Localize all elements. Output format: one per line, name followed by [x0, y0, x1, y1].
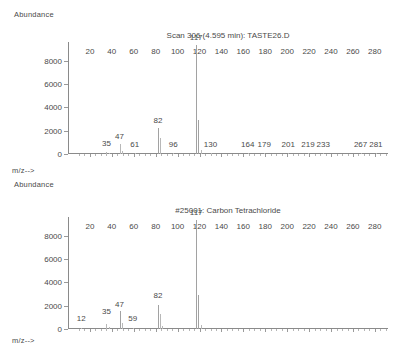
x-axis-minor-tick: [79, 329, 80, 331]
x-axis-tick: [90, 154, 91, 157]
x-axis-tick: [375, 329, 376, 332]
x-axis-minor-tick: [216, 154, 217, 156]
spectrum-peak: [162, 326, 163, 329]
x-axis-minor-tick: [364, 154, 365, 156]
spectrum-peak: [201, 325, 202, 329]
x-axis-minor-tick: [183, 154, 184, 156]
spectrum-peak: [248, 153, 249, 154]
x-axis-caption-bottom: m/z-->: [12, 336, 35, 345]
spectrum-peak: [160, 138, 161, 154]
spectrum-peak: [160, 314, 161, 330]
x-axis-caption-top: m/z-->: [12, 166, 35, 175]
plot-area-library: 2040608010012014016018020022024026028002…: [68, 217, 388, 329]
peak-label: 35: [102, 139, 111, 148]
peak-label: 219: [301, 140, 314, 149]
x-axis-minor-tick: [293, 329, 294, 331]
x-axis-minor-tick: [117, 154, 118, 156]
x-axis-minor-tick: [304, 154, 305, 156]
x-axis-tick-label: 280: [368, 47, 381, 56]
x-axis-minor-tick: [172, 329, 173, 331]
x-axis-minor-tick: [276, 329, 277, 331]
y-axis-tick: [64, 306, 68, 307]
x-axis-minor-tick: [183, 329, 184, 331]
spectrum-peak: [133, 328, 134, 329]
x-axis-tick-label: 240: [324, 47, 337, 56]
x-axis-minor-tick: [161, 154, 162, 156]
x-axis-minor-tick: [194, 329, 195, 331]
spectrum-peak: [158, 128, 159, 154]
peak-label: 82: [153, 291, 162, 300]
x-axis-minor-tick: [326, 329, 327, 331]
peak-label: 47: [115, 300, 124, 309]
spectrum-peak: [106, 324, 107, 329]
peak-label: 281: [369, 140, 382, 149]
x-axis-tick-label: 120: [193, 222, 206, 231]
peak-label: 47: [115, 132, 124, 141]
x-axis-tick-label: 200: [281, 222, 294, 231]
x-axis-minor-tick: [320, 154, 321, 156]
x-axis-tick: [331, 329, 332, 332]
x-axis-minor-tick: [320, 329, 321, 331]
x-axis-minor-tick: [123, 154, 124, 156]
x-axis-tick-label: 80: [151, 47, 160, 56]
x-axis-minor-tick: [326, 154, 327, 156]
x-axis-minor-tick: [260, 329, 261, 331]
x-axis-tick-label: 140: [215, 47, 228, 56]
x-axis-minor-tick: [337, 329, 338, 331]
y-axis-tick-label: 4000: [44, 103, 62, 112]
x-axis-minor-tick: [369, 154, 370, 156]
y-axis-tick-label: 6000: [44, 255, 62, 264]
spectrum-peak: [196, 220, 197, 329]
y-axis-tick: [64, 131, 68, 132]
x-axis-minor-tick: [123, 329, 124, 331]
x-axis-tick-label: 260: [346, 222, 359, 231]
peak-label: 233: [317, 140, 330, 149]
x-axis-tick-label: 60: [129, 47, 138, 56]
x-axis-minor-tick: [337, 154, 338, 156]
x-axis-tick-label: 160: [237, 222, 250, 231]
x-axis-tick: [243, 329, 244, 332]
x-axis-tick-label: 120: [193, 47, 206, 56]
x-axis-minor-tick: [216, 329, 217, 331]
x-axis-tick: [134, 329, 135, 332]
x-axis-minor-tick: [386, 154, 387, 156]
x-axis-minor-tick: [348, 154, 349, 156]
x-axis-minor-tick: [364, 329, 365, 331]
peak-label: 12: [77, 314, 86, 323]
x-axis-minor-tick: [249, 154, 250, 156]
peak-label: 82: [153, 116, 162, 125]
x-axis-minor-tick: [189, 154, 190, 156]
x-axis-minor-tick: [304, 329, 305, 331]
x-axis-minor-tick: [271, 154, 272, 156]
peak-label: 267: [354, 140, 367, 149]
y-axis-tick: [64, 282, 68, 283]
x-axis-minor-tick: [189, 329, 190, 331]
x-axis-tick: [265, 329, 266, 332]
x-axis-tick-label: 80: [151, 222, 160, 231]
x-axis-minor-tick: [167, 329, 168, 331]
x-axis-minor-tick: [211, 329, 212, 331]
x-axis-tick: [178, 154, 179, 157]
spectrum-peak: [211, 153, 212, 154]
x-axis-tick: [134, 154, 135, 157]
y-axis-tick-label: 8000: [44, 56, 62, 65]
y-axis-caption-top: Abundance: [14, 10, 54, 19]
x-axis-tick: [112, 329, 113, 332]
x-axis-minor-tick: [95, 154, 96, 156]
x-axis-minor-tick: [167, 154, 168, 156]
x-axis-minor-tick: [380, 329, 381, 331]
x-axis-minor-tick: [145, 329, 146, 331]
x-axis-minor-tick: [227, 154, 228, 156]
plot-area-sample: 2040608010012014016018020022024026028002…: [68, 42, 388, 154]
y-axis-tick: [64, 84, 68, 85]
x-axis-minor-tick: [386, 329, 387, 331]
x-axis-tick: [112, 154, 113, 157]
x-axis-minor-tick: [205, 329, 206, 331]
x-axis-minor-tick: [101, 329, 102, 331]
y-axis-caption-bottom: Abundance: [14, 180, 54, 189]
peak-label: 35: [102, 307, 111, 316]
peak-label: 201: [282, 140, 295, 149]
y-axis-tick-label: 2000: [44, 126, 62, 135]
x-axis-minor-tick: [227, 329, 228, 331]
y-axis-tick: [64, 61, 68, 62]
